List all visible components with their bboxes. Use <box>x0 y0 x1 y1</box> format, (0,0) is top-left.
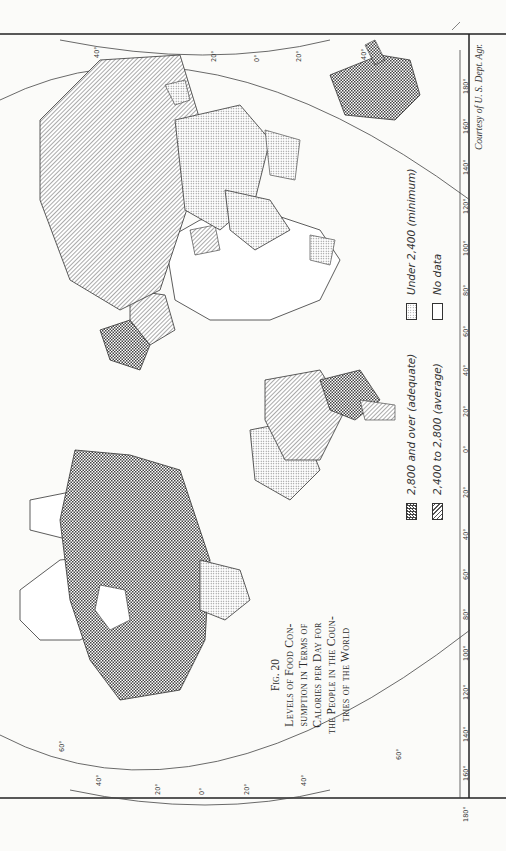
legend-item-average: 2,400 to 2,800 (average) <box>431 363 443 520</box>
figure-title-line-3: Calories per Day for <box>310 575 324 775</box>
figure-number: Fig. 20 <box>268 575 282 775</box>
legend-item-adequate: 2,800 and over (adequate) <box>405 354 417 520</box>
credit-line: Courtesy of U. S. Dept. Agr. <box>474 44 484 150</box>
region-southeast-asia <box>265 130 300 180</box>
region-north-america <box>60 450 210 700</box>
blank-swatch-icon <box>432 303 443 320</box>
legend-item-minimum: Under 2,400 (minimum) <box>405 168 417 320</box>
figure-caption: Fig. 20 Levels of Food Con- sumption in … <box>268 575 352 775</box>
legend-item-no-data: No data <box>431 254 443 320</box>
figure-title-line-5: tries of the World <box>338 575 352 775</box>
map-page: Fig. 20 Levels of Food Con- sumption in … <box>0 0 506 851</box>
dots-swatch-icon <box>406 303 417 320</box>
diagonal-swatch-icon <box>432 503 443 520</box>
figure-title-line-1: Levels of Food Con- <box>282 575 296 775</box>
figure-title-line-4: the People in the Coun- <box>324 575 338 775</box>
crosshatch-swatch-icon <box>406 503 417 520</box>
figure-title-line-2: sumption in Terms of <box>296 575 310 775</box>
region-mexico <box>200 560 250 620</box>
